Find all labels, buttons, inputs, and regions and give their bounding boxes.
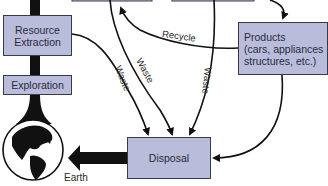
top-left-box	[72, 0, 152, 1]
products-subtitle-line-1: (cars, appliances	[244, 43, 327, 55]
trunk-segment-top	[30, 0, 40, 16]
disposal-box: Disposal	[127, 137, 211, 179]
recycle-edge	[121, 8, 238, 48]
waste-edge-1	[72, 34, 148, 134]
resource-extraction-box: Resource Extraction	[3, 15, 72, 56]
disposal-to-earth-arrow	[68, 145, 127, 171]
products-title: Products	[244, 31, 327, 43]
top-to-products-edge	[270, 0, 284, 18]
products-box: Products (cars, appliances structures, e…	[238, 22, 328, 75]
exploration-box: Exploration	[3, 75, 72, 95]
trunk-segment-middle	[30, 56, 40, 75]
top-right-box	[172, 0, 254, 1]
products-to-disposal-edge	[214, 75, 282, 158]
products-subtitle-line-2: structures, etc.)	[244, 55, 327, 67]
earth-label: Earth	[64, 172, 88, 183]
earth-globe-icon	[3, 120, 63, 180]
